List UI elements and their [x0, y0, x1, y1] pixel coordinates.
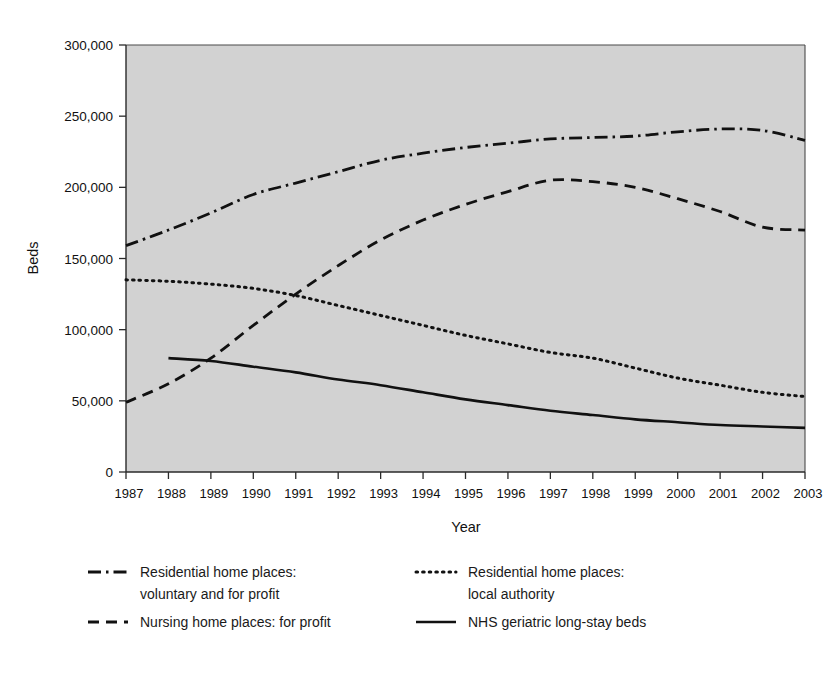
- x-tick-label: 1992: [327, 486, 356, 501]
- x-tick-label: 1999: [624, 486, 653, 501]
- x-tick-label: 2002: [751, 486, 780, 501]
- beds-over-time-line-chart: 050,000100,000150,000200,000250,000300,0…: [0, 0, 840, 676]
- legend-item: Nursing home places: for profit: [88, 614, 331, 630]
- plot-background: [126, 45, 805, 472]
- x-tick-label: 2000: [666, 486, 695, 501]
- y-tick-label: 250,000: [64, 109, 113, 124]
- legend-label-line2: local authority: [468, 586, 554, 602]
- x-tick-label: 1995: [454, 486, 483, 501]
- x-tick-label: 1993: [369, 486, 398, 501]
- chart-legend: Residential home places:voluntary and fo…: [88, 564, 646, 630]
- y-tick-label: 150,000: [64, 252, 113, 267]
- x-axis-ticks: 1987198819891990199119921993199419951996…: [115, 472, 823, 501]
- legend-label-line2: voluntary and for profit: [140, 586, 279, 602]
- y-tick-label: 200,000: [64, 180, 113, 195]
- x-tick-label: 2001: [709, 486, 738, 501]
- y-axis-ticks: 050,000100,000150,000200,000250,000300,0…: [64, 38, 126, 480]
- x-tick-label: 1998: [581, 486, 610, 501]
- legend-label: Residential home places:: [140, 564, 296, 580]
- chart-figure: 050,000100,000150,000200,000250,000300,0…: [0, 0, 840, 676]
- x-tick-label: 2003: [794, 486, 823, 501]
- y-tick-label: 0: [105, 465, 113, 480]
- y-axis-title: Beds: [25, 241, 41, 274]
- y-tick-label: 50,000: [72, 394, 113, 409]
- legend-label: Residential home places:: [468, 564, 624, 580]
- y-tick-label: 100,000: [64, 323, 113, 338]
- x-tick-label: 1994: [412, 486, 441, 501]
- x-tick-label: 1988: [157, 486, 186, 501]
- x-tick-label: 1991: [284, 486, 313, 501]
- x-tick-label: 1990: [242, 486, 271, 501]
- legend-item: Residential home places:voluntary and fo…: [88, 564, 296, 602]
- x-tick-label: 1989: [199, 486, 228, 501]
- legend-item: NHS geriatric long-stay beds: [416, 614, 646, 630]
- x-tick-label: 1987: [115, 486, 144, 501]
- legend-item: Residential home places:local authority: [416, 564, 624, 602]
- legend-label: Nursing home places: for profit: [140, 614, 331, 630]
- y-tick-label: 300,000: [64, 38, 113, 53]
- x-tick-label: 1996: [496, 486, 525, 501]
- legend-label: NHS geriatric long-stay beds: [468, 614, 646, 630]
- x-axis-title: Year: [451, 519, 480, 535]
- x-tick-label: 1997: [539, 486, 568, 501]
